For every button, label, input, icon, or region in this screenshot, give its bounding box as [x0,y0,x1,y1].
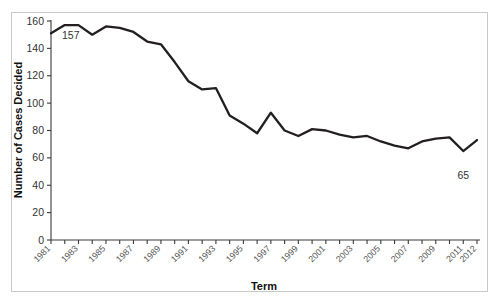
x-tick-label: 2005 [361,243,382,264]
x-tick-label: 2003 [334,243,355,264]
y-tick-label: 160 [26,15,44,27]
data-annotations: 15765 [62,29,469,181]
y-tick-label: 40 [32,179,44,191]
x-axis-title: Term [251,280,277,292]
y-axis-ticks [47,21,51,240]
x-axis-tick-labels: 1981198319851987198919911993199519971999… [31,243,478,264]
y-tick-label: 100 [26,97,44,109]
x-tick-label: 1981 [31,243,52,264]
x-tick-label: 1989 [141,243,162,264]
y-tick-label: 60 [32,151,44,163]
x-tick-label: 1983 [59,243,80,264]
y-tick-label: 140 [26,42,44,54]
line-chart-svg: 020406080100120140160 198119831985198719… [0,0,499,303]
y-axis-tick-labels: 020406080100120140160 [26,15,44,246]
x-tick-label: 1991 [169,243,190,264]
chart-figure: 020406080100120140160 198119831985198719… [0,0,499,303]
y-tick-label: 20 [32,206,44,218]
x-tick-label: 1995 [224,243,245,264]
x-tick-label: 1997 [251,243,272,264]
x-tick-label: 1987 [114,243,135,264]
y-tick-label: 80 [32,124,44,136]
data-label: 157 [62,29,80,41]
x-tick-label: 1985 [86,243,107,264]
x-tick-label: 1993 [196,243,217,264]
y-tick-label: 0 [38,234,44,246]
x-tick-label: 1999 [279,243,300,264]
y-tick-label: 120 [26,69,44,81]
x-tick-label: 2001 [306,243,327,264]
x-tick-label: 2009 [416,243,437,264]
plot-area: 020406080100120140160 198119831985198719… [0,0,499,303]
data-label: 65 [457,169,469,181]
y-axis-title: Number of Cases Decided [12,62,24,198]
x-tick-label: 2007 [389,243,410,264]
data-series-line [51,25,477,151]
